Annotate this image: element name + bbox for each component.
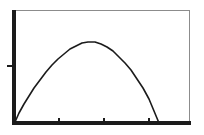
curve-layer (0, 0, 204, 135)
calculator-screen (0, 0, 204, 135)
parabola-curve (15, 42, 159, 123)
parabola-plot (0, 0, 204, 135)
